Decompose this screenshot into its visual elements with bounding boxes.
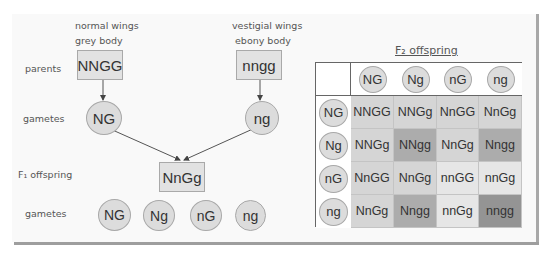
gametes-label-f1: gametes bbox=[25, 208, 66, 219]
left-parent-phenotype-body: grey body bbox=[75, 35, 123, 46]
punnett-col-header-cell: Ng bbox=[394, 63, 437, 96]
punnett-row-header-cell: nG bbox=[316, 162, 351, 195]
right-parent-gamete: ng bbox=[245, 101, 279, 135]
punnett-col-gamete: nG bbox=[444, 66, 472, 93]
punnett-row-gamete: Ng bbox=[319, 132, 348, 160]
f1-genotype: NnGg bbox=[159, 162, 205, 192]
f1-gamete: NG bbox=[98, 199, 131, 231]
punnett-genotype-cell: NnGg bbox=[437, 129, 479, 162]
right-parent-phenotype-body: ebony body bbox=[235, 35, 291, 46]
punnett-col-header-cell: NG bbox=[351, 63, 394, 96]
punnett-genotype-cell: NNGg bbox=[394, 96, 437, 129]
punnett-square: NGNgnGngNGNNGGNNGgNnGGNnGgNgNNGgNNggNnGg… bbox=[315, 62, 522, 227]
punnett-row-header-cell: NG bbox=[316, 96, 351, 129]
punnett-genotype-cell: NNgg bbox=[394, 129, 437, 162]
left-parent-phenotype-wings: normal wings bbox=[75, 20, 139, 31]
punnett-col-gamete: Ng bbox=[402, 66, 430, 93]
punnett-genotype-cell: nnGg bbox=[479, 162, 522, 195]
punnett-col-header-cell: ng bbox=[479, 63, 522, 96]
right-parent-phenotype-wings: vestigial wings bbox=[232, 20, 302, 31]
punnett-corner-cell bbox=[316, 63, 351, 96]
gametes-label-parents: gametes bbox=[23, 113, 64, 124]
punnett-col-header-cell: nG bbox=[437, 63, 479, 96]
punnett-row-gamete: NG bbox=[319, 99, 348, 127]
punnett-genotype-cell: nngg bbox=[479, 195, 522, 228]
right-parent-genotype: nngg bbox=[236, 50, 282, 80]
punnett-genotype-cell: NnGg bbox=[479, 96, 522, 129]
punnett-genotype-cell: NnGG bbox=[437, 96, 479, 129]
f1-gamete: ng bbox=[235, 200, 266, 231]
left-parent-gamete: NG bbox=[86, 101, 122, 135]
punnett-genotype-cell: nnGg bbox=[437, 195, 479, 228]
punnett-genotype-cell: Nngg bbox=[479, 129, 522, 162]
punnett-row-header-cell: ng bbox=[316, 195, 351, 228]
punnett-genotype-cell: nnGG bbox=[437, 162, 479, 195]
punnett-genotype-cell: NNGg bbox=[351, 129, 394, 162]
punnett-genotype-cell: Nngg bbox=[394, 195, 437, 228]
punnett-genotype-cell: NnGG bbox=[351, 162, 394, 195]
punnett-col-gamete: NG bbox=[359, 66, 387, 93]
left-parent-genotype: NNGG bbox=[77, 50, 123, 80]
punnett-row-gamete: ng bbox=[319, 198, 348, 226]
punnett-title: F₂ offspring bbox=[395, 44, 458, 57]
punnett-row-gamete: nG bbox=[319, 165, 348, 193]
punnett-genotype-cell: NnGg bbox=[394, 162, 437, 195]
punnett-genotype-cell: NnGg bbox=[351, 195, 394, 228]
parents-label: parents bbox=[25, 63, 61, 74]
punnett-row-header-cell: Ng bbox=[316, 129, 351, 162]
f1-offspring-label: F₁ offspring bbox=[18, 169, 72, 180]
punnett-genotype-cell: NNGG bbox=[351, 96, 394, 129]
punnett-col-gamete: ng bbox=[487, 66, 515, 93]
f1-gamete: nG bbox=[190, 200, 222, 231]
f1-gamete: Ng bbox=[143, 200, 175, 231]
